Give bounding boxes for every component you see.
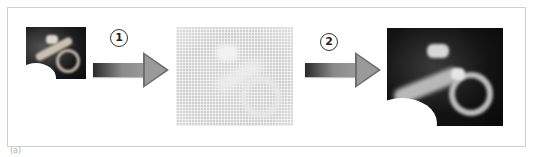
intermediate-halftone-image (176, 27, 293, 126)
step-1-badge: 1 (110, 29, 128, 47)
input-image (26, 27, 86, 79)
arrow-right-icon (305, 52, 381, 88)
figure-caption: (a) (10, 146, 21, 155)
output-image (387, 28, 503, 126)
step-2-badge: 2 (320, 33, 338, 51)
arrow-right-icon (93, 52, 169, 88)
